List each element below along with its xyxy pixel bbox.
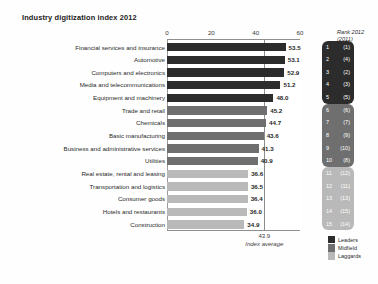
rank-cell: 6(6)	[322, 104, 354, 117]
bar-value-label: 36.6	[251, 168, 263, 180]
rank-previous: (10)	[340, 142, 350, 155]
rank-previous: (2)	[343, 66, 350, 79]
rank-previous: (3)	[343, 78, 350, 91]
bar	[167, 132, 264, 140]
x-axis-tick-20: 20	[208, 29, 215, 36]
rank-current: 15	[326, 218, 332, 231]
bar	[167, 106, 267, 114]
rank-previous: (6)	[343, 104, 350, 117]
category-label: Basic manufacturing	[109, 130, 165, 142]
category-label: Trade and retail	[122, 105, 165, 117]
rank-previous: (12)	[340, 167, 350, 180]
legend-item: Midfield	[328, 244, 378, 252]
category-label: Consumer goods	[118, 193, 165, 205]
category-label: Real estate, rental and leasing	[81, 168, 165, 180]
rank-current: 10	[326, 154, 332, 167]
bar	[167, 68, 284, 76]
bar	[167, 220, 244, 228]
rank-current: 8	[326, 129, 329, 142]
bar-value-label: 48.0	[276, 92, 288, 104]
index-average-value: 43.9	[258, 233, 270, 239]
rank-previous: (15)	[340, 205, 350, 218]
rank-current: 1	[326, 41, 329, 54]
category-label: Automotive	[134, 54, 165, 66]
rank-group-laggards: 11(12)12(11)13(13)14(15)15(14)	[322, 167, 354, 230]
legend-label: Leaders	[338, 237, 358, 243]
legend-swatch-leaders	[328, 236, 335, 243]
rank-previous: (5)	[343, 91, 350, 104]
rank-cell: 5(5)	[322, 91, 354, 104]
rank-cell: 7(7)	[322, 116, 354, 129]
rank-cell: 15(14)	[322, 218, 354, 231]
bar	[167, 170, 248, 178]
bar	[167, 208, 247, 216]
rank-cell: 3(2)	[322, 66, 354, 79]
rank-previous: (14)	[340, 218, 350, 231]
category-label: Transportation and logistics	[90, 181, 165, 193]
bar-value-label: 34.9	[247, 219, 259, 231]
rank-cell: 9(10)	[322, 142, 354, 155]
rank-cell: 14(15)	[322, 205, 354, 218]
bar-value-label: 51.2	[283, 79, 295, 91]
rank-current: 2	[326, 53, 329, 66]
legend-swatch-midfield	[328, 244, 335, 251]
rank-previous: (13)	[340, 192, 350, 205]
rank-cell: 2(4)	[322, 53, 354, 66]
bar	[167, 157, 258, 165]
category-label: Business and administrative services	[64, 143, 165, 155]
bar-value-label: 53.5	[289, 42, 301, 54]
rank-cell: 10(8)	[322, 154, 354, 167]
rank-header-line1: Rank 2012	[337, 29, 378, 36]
rank-current: 7	[326, 116, 329, 129]
bar-value-label: 40.9	[261, 155, 273, 167]
category-label: Utilities	[145, 155, 165, 167]
x-axis-tick-0: 0	[165, 29, 168, 36]
rank-current: 9	[326, 142, 329, 155]
legend-item: Laggards	[328, 252, 378, 260]
rank-cell: 12(11)	[322, 180, 354, 193]
x-axis-tick-labels: 0204060	[167, 29, 307, 39]
legend-label: Laggards	[338, 253, 361, 259]
bar-value-label: 43.6	[267, 130, 279, 142]
x-axis-tick-40: 40	[252, 29, 259, 36]
bar-value-label: 44.7	[269, 117, 281, 129]
rank-current: 12	[326, 180, 332, 193]
category-label: Chemicals	[136, 117, 165, 129]
rank-current: 3	[326, 66, 329, 79]
rank-current: 6	[326, 104, 329, 117]
bar-value-label: 36.4	[251, 193, 263, 205]
category-label: Construction	[130, 219, 165, 231]
legend-swatch-laggards	[328, 252, 335, 259]
rank-previous: (11)	[341, 180, 350, 193]
chart-legend: LeadersMidfieldLaggards	[328, 236, 378, 261]
rank-group-midfield: 6(6)7(7)8(9)9(10)10(8)	[322, 104, 354, 167]
index-average-label: 43.9 Index average	[245, 232, 283, 248]
bar-value-label: 45.2	[270, 105, 282, 117]
rank-current: 11	[326, 167, 332, 180]
rank-previous: (9)	[343, 129, 350, 142]
category-label: Financial services and insurance	[75, 42, 165, 54]
bar-value-label: 36.5	[251, 181, 263, 193]
category-label: Hotels and restaurants	[103, 206, 165, 218]
rank-cell: 8(9)	[322, 129, 354, 142]
rank-cell: 13(13)	[322, 192, 354, 205]
category-label: Computers and electronics	[91, 67, 165, 79]
bar	[167, 195, 248, 203]
rank-previous: (4)	[343, 53, 350, 66]
bar	[167, 81, 280, 89]
x-axis-tick-60: 60	[297, 29, 304, 36]
bar-value-label: 53.1	[288, 54, 300, 66]
rank-current: 5	[326, 91, 329, 104]
rank-current: 4	[326, 78, 329, 91]
rank-cell: 4(3)	[322, 78, 354, 91]
rank-previous: (8)	[343, 154, 350, 167]
category-label: Equipment and machinery	[93, 92, 165, 104]
rank-previous: (1)	[343, 41, 350, 54]
bar	[167, 119, 266, 127]
bar	[167, 56, 285, 64]
rank-group-leaders: 1(1)2(4)3(2)4(3)5(5)	[322, 41, 354, 104]
bar	[167, 94, 273, 102]
bar	[167, 182, 248, 190]
category-label: Media and telecommunications	[80, 79, 165, 91]
chart-canvas: Industry digitization index 2012 0204060…	[0, 0, 378, 284]
